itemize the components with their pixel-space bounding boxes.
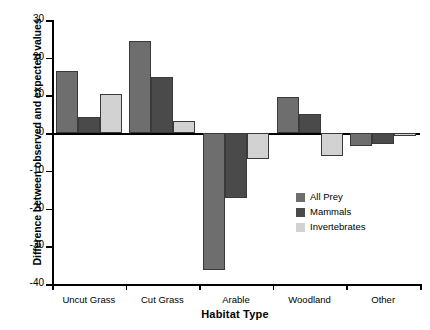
legend-label: Mammals (310, 206, 351, 218)
legend-item: Mammals (296, 205, 365, 219)
bar (151, 77, 173, 134)
bar (56, 71, 78, 133)
y-axis-tick: -30 (46, 246, 52, 248)
bar (203, 133, 225, 270)
bar (394, 133, 416, 136)
y-axis-spine (52, 20, 54, 286)
bar (173, 121, 195, 133)
y-axis-tick: -10 (46, 171, 52, 173)
y-axis-tick-label: 30 (33, 13, 44, 25)
y-axis-tick-label: -10 (30, 164, 44, 176)
y-axis-tick-label: 0 (38, 126, 44, 138)
x-axis-title: Habitat Type (50, 308, 420, 320)
bar (247, 133, 269, 159)
bar (372, 133, 394, 144)
bar (299, 114, 321, 133)
x-axis-tick (126, 284, 128, 290)
bar (78, 117, 100, 133)
y-axis-tick: 20 (46, 58, 52, 60)
x-axis-tick (346, 284, 348, 290)
bar (129, 41, 151, 133)
legend-swatch-icon (296, 193, 305, 202)
y-axis-tick-label: 10 (33, 88, 44, 100)
bar (321, 133, 343, 156)
x-axis-tick (273, 284, 275, 290)
bar (277, 97, 299, 133)
x-axis-tick (52, 284, 54, 290)
y-axis-tick: -20 (46, 209, 52, 211)
x-axis-tick (420, 284, 422, 290)
y-axis-tick: 0 (46, 133, 52, 135)
y-axis-tick: 30 (46, 20, 52, 22)
chart-legend: All PreyMammalsInvertebrates (296, 190, 365, 235)
legend-item: All Prey (296, 190, 365, 204)
legend-item: Invertebrates (296, 220, 365, 234)
plot-area: 3020100-10-20-30-40 Uncut GrassCut Grass… (52, 20, 420, 286)
bar (100, 94, 122, 134)
y-axis-tick-label: -20 (30, 202, 44, 214)
y-axis-tick-label: -30 (30, 239, 44, 251)
y-axis-tick-label: 20 (33, 51, 44, 63)
y-axis-tick: 10 (46, 95, 52, 97)
legend-swatch-icon (296, 223, 305, 232)
bar (350, 133, 372, 146)
y-axis-tick-label: -40 (30, 277, 44, 289)
bar (225, 133, 247, 198)
bar-chart-figure: Difference between observed and expected… (0, 0, 430, 330)
x-axis-spine (52, 284, 420, 286)
legend-label: Invertebrates (310, 221, 365, 233)
legend-swatch-icon (296, 208, 305, 217)
legend-label: All Prey (310, 191, 343, 203)
x-axis-tick (199, 284, 201, 290)
x-axis-category-label: Other (338, 294, 428, 306)
